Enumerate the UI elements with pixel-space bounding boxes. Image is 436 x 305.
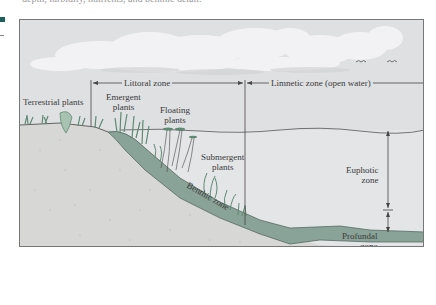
euphotic-zone-label: Euphotic zone	[346, 165, 379, 185]
emergent-label-line1: Emergent	[106, 92, 141, 102]
terrestrial-plants-label: Terrestrial plants	[23, 97, 84, 107]
margin-marker	[0, 17, 5, 22]
floating-label-line2: plants	[160, 115, 190, 125]
euphotic-label-line1: Euphotic	[346, 165, 379, 175]
diagram-illustration	[20, 20, 424, 247]
limnetic-zone-label: Limnetic zone (open water)	[269, 78, 373, 88]
margin-dash	[0, 35, 4, 36]
floating-plants-label: Floating plants	[160, 105, 190, 125]
emergent-plants-label: Emergent plants	[106, 92, 141, 112]
littoral-zone-label: Littoral zone	[122, 78, 172, 88]
euphotic-label-line2: zone	[346, 175, 379, 185]
submergent-plants-label: Submergent plants	[201, 152, 244, 172]
submergent-label-line2: plants	[201, 162, 244, 172]
submergent-label-line1: Submergent	[201, 152, 244, 162]
profundal-zone-label: Profundal zone	[342, 231, 378, 247]
profundal-label-line1: Profundal	[342, 231, 378, 241]
page-caption-text: depth, turbidity, nutrients, and benthic…	[22, 0, 202, 4]
floating-label-line1: Floating	[160, 105, 190, 115]
lake-zonation-diagram: Littoral zone Limnetic zone (open water)…	[19, 19, 424, 247]
emergent-label-line2: plants	[106, 102, 141, 112]
